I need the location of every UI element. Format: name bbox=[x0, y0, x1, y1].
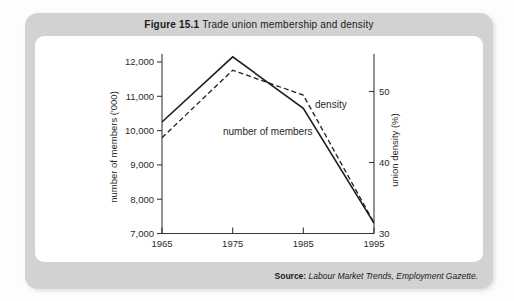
figure-source: Source: Labour Market Trends, Employment… bbox=[35, 262, 478, 289]
x-axis-tick-label: 1975 bbox=[222, 238, 243, 249]
left-axis-tick-label: 12,000 bbox=[125, 56, 154, 67]
page: Figure 15.1 Trade union membership and d… bbox=[0, 0, 514, 301]
source-label: Source: bbox=[275, 271, 309, 281]
right-axis-tick-label: 40 bbox=[379, 157, 390, 168]
figure-number: Figure 15.1 bbox=[144, 19, 199, 30]
right-axis-title: union density (%) bbox=[389, 113, 400, 186]
source-text: Labour Market Trends, Employment Gazette… bbox=[309, 271, 478, 281]
chart-panel: 7,0008,0009,00010,00011,00012,0003040501… bbox=[35, 36, 483, 262]
left-axis-tick-label: 10,000 bbox=[125, 125, 154, 136]
figure-title: Figure 15.1 Trade union membership and d… bbox=[25, 13, 493, 36]
density-series-label: density bbox=[315, 99, 347, 110]
left-axis-tick-label: 8,000 bbox=[130, 194, 154, 205]
x-axis-tick-label: 1985 bbox=[293, 238, 314, 249]
figure-frame: Figure 15.1 Trade union membership and d… bbox=[25, 13, 493, 289]
members-line bbox=[162, 57, 374, 223]
figure-caption: Trade union membership and density bbox=[199, 19, 373, 30]
left-axis-tick-label: 11,000 bbox=[126, 91, 154, 102]
left-axis-tick-label: 9,000 bbox=[130, 159, 154, 170]
line-chart: 7,0008,0009,00010,00011,00012,0003040501… bbox=[35, 36, 483, 262]
x-axis-tick-label: 1995 bbox=[363, 238, 384, 249]
x-axis-tick-label: 1965 bbox=[151, 238, 172, 249]
members-series-label: number of members bbox=[223, 126, 312, 137]
left-axis-title: number of members ('000) bbox=[108, 91, 119, 203]
left-axis-tick-label: 7,000 bbox=[130, 228, 154, 239]
right-axis-tick-label: 50 bbox=[379, 86, 390, 97]
